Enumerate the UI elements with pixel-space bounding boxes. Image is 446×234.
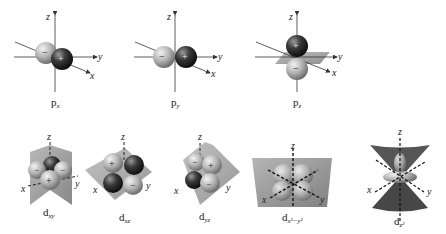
dxy-x-axis-label: x <box>21 183 25 194</box>
pz-x-axis-label: x <box>332 67 336 78</box>
svg-text:−: − <box>60 165 65 175</box>
dyz-orbital: − + − <box>183 142 240 205</box>
dz2-z-axis-label: z <box>398 126 402 137</box>
dxy-z-axis-label: z <box>47 131 51 142</box>
dz2-y-axis-label: y <box>427 186 431 197</box>
px-y-axis-label: y <box>98 51 102 62</box>
dz2-label: dz² <box>394 215 404 229</box>
dx2y2-x-axis-label: x <box>262 194 266 205</box>
pz-y-axis-label: y <box>338 51 342 62</box>
svg-text:+: + <box>58 53 64 64</box>
py-label: py <box>171 96 180 110</box>
dyz-x-axis-label: x <box>174 185 178 196</box>
dxz-z-axis-label: z <box>121 131 125 142</box>
dyz-label: dyz <box>199 210 210 224</box>
svg-text:−: − <box>159 51 165 62</box>
px-orbital: − + <box>14 15 97 92</box>
svg-text:−: − <box>42 47 48 58</box>
dx2y2-y-axis-label: y <box>320 194 324 205</box>
pz-orbital: + − <box>255 15 337 92</box>
svg-text:−: − <box>192 157 197 167</box>
dx2y2-label: dx²−y² <box>282 211 303 225</box>
px-label: px <box>51 96 60 110</box>
dz2-x-axis-label: x <box>367 184 371 195</box>
dxz-y-axis-label: y <box>146 180 150 191</box>
svg-text:−: − <box>130 180 136 191</box>
dyz-y-axis-label: y <box>226 182 230 193</box>
pz-z-axis-label: z <box>289 11 293 22</box>
py-z-axis-label: z <box>167 11 171 22</box>
svg-text:−: − <box>293 63 299 74</box>
dyz-z-axis-label: z <box>198 131 202 142</box>
svg-text:+: + <box>293 40 299 51</box>
orbital-diagram: − + − + + − − − + <box>0 0 446 234</box>
px-x-axis-label: x <box>90 70 94 81</box>
dxz-x-axis-label: x <box>93 184 97 195</box>
pz-label: pz <box>293 96 301 110</box>
dz2-orbital <box>370 138 430 222</box>
dxy-orbital: − − + <box>28 142 78 205</box>
py-y-axis-label: y <box>218 51 222 62</box>
dx2y2-z-axis-label: z <box>291 140 295 151</box>
px-z-axis-label: z <box>46 11 50 22</box>
dxy-label: dxy <box>43 206 55 220</box>
dxz-label: dxz <box>119 211 130 225</box>
svg-text:+: + <box>46 175 52 186</box>
py-x-axis-label: x <box>211 68 215 79</box>
svg-text:−: − <box>206 179 211 189</box>
svg-text:+: + <box>109 158 115 169</box>
svg-text:−: − <box>34 165 39 175</box>
py-orbital: − + <box>134 15 217 92</box>
dxy-y-axis-label: y <box>75 178 79 189</box>
svg-text:+: + <box>208 160 214 171</box>
svg-text:+: + <box>182 51 188 62</box>
